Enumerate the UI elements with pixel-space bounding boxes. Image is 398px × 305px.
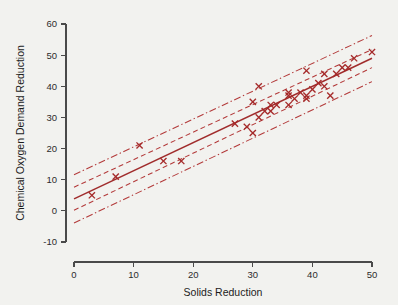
data-point xyxy=(250,130,256,136)
x-tick-label: 0 xyxy=(71,269,76,280)
y-tick-label: 60 xyxy=(46,18,57,29)
y-tick-label: 40 xyxy=(46,81,57,92)
data-point xyxy=(256,114,262,120)
data-point xyxy=(291,96,297,102)
data-point xyxy=(268,108,274,114)
data-point xyxy=(244,124,250,130)
y-tick-label: -10 xyxy=(43,236,57,247)
chart-figure: -10010203040506001020304050 Solids Reduc… xyxy=(0,0,398,305)
y-tick-label: 30 xyxy=(46,112,57,123)
x-tick-label: 20 xyxy=(188,269,199,280)
data-point xyxy=(89,192,95,198)
y-axis-title: Chemical Oxygen Demand Reduction xyxy=(14,45,26,221)
y-tick-label: 10 xyxy=(46,174,57,185)
x-tick-label: 50 xyxy=(367,269,378,280)
x-tick-label: 10 xyxy=(128,269,139,280)
data-point xyxy=(321,83,327,89)
x-tick-label: 30 xyxy=(248,269,259,280)
data-point xyxy=(339,65,345,71)
regression-line xyxy=(74,58,372,199)
band-1-upper xyxy=(74,36,372,175)
y-tick-label: 0 xyxy=(52,205,57,216)
data-point xyxy=(160,158,166,164)
band-1-lower xyxy=(74,82,372,223)
data-point xyxy=(321,71,327,77)
scatter-plot-svg: -10010203040506001020304050 Solids Reduc… xyxy=(0,0,398,305)
y-tick-label: 50 xyxy=(46,50,57,61)
band-0-upper xyxy=(74,50,372,188)
data-point xyxy=(256,83,262,89)
y-tick-label: 20 xyxy=(46,143,57,154)
least-squares-fit-line xyxy=(74,58,372,199)
x-axis-title: Solids Reduction xyxy=(184,286,263,298)
data-point xyxy=(303,68,309,74)
data-point xyxy=(327,93,333,99)
x-tick-label: 40 xyxy=(307,269,318,280)
axes: -10010203040506001020304050 xyxy=(43,18,377,280)
data-point xyxy=(309,86,315,92)
